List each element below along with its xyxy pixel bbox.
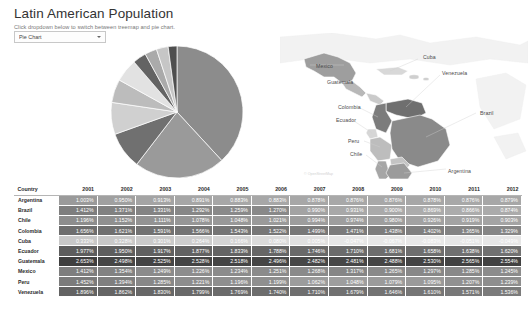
table-row[interactable]: Mexico1.412%1.354%1.249%1.226%1.234%1.25… [15,266,522,276]
table-cell-value: 0.900% [367,205,406,215]
table-cell-country: Argentina [15,195,59,205]
table-cell-value: 1.638% [444,246,483,256]
table-cell-value: 1.095% [406,277,445,287]
table-cell-country: Cuba [15,236,59,246]
table-col-header-2003[interactable]: 2003 [136,184,175,195]
table-cell-value: 1.710% [290,287,329,297]
table-cell-value: 1.394% [97,277,136,287]
map-region-centralamerica[interactable] [366,93,384,105]
table-cell-value: 1.769% [213,287,252,297]
table-row[interactable]: Chile1.196%1.152%1.111%1.078%1.048%1.021… [15,215,522,225]
chart-type-select-value: Pie Chart [19,34,97,40]
table-row[interactable]: Colombia1.656%1.621%1.591%1.566%1.543%1.… [15,226,522,236]
table-col-header-2004[interactable]: 2004 [174,184,213,195]
table-cell-value: 1.543% [213,226,252,236]
table-cell-value: 2.653% [59,256,98,266]
map-label-mexico: Mexico [316,63,333,69]
table-col-header-2012[interactable]: 2012 [483,184,522,195]
table-cell-value: 1.196% [59,215,98,225]
table-row[interactable]: Brazil1.412%1.371%1.331%1.292%1.259%1.27… [15,205,522,215]
table-row[interactable]: Cuba0.333%0.328%0.301%0.264%0.166%0.080%… [15,236,522,246]
table-cell-value: 0.866% [444,205,483,215]
pie-chart-svg [104,44,250,180]
table-cell-country: Venezuela [15,287,59,297]
table-cell-value: 0.878% [290,195,329,205]
table-row[interactable]: Argentina1.003%0.950%0.913%0.891%0.883%0… [15,195,522,205]
table-col-header-2009[interactable]: 2009 [367,184,406,195]
table-cell-value: 1.152% [97,215,136,225]
table-col-header-2010[interactable]: 2010 [406,184,445,195]
table-cell-value: 1.226% [174,266,213,276]
table-cell-value: 1.048% [329,277,368,287]
table-cell-value: 2.525% [136,256,175,266]
chart-type-select[interactable]: Pie Chart [14,31,106,43]
table-cell-value: 1.833% [213,246,252,256]
map-region-cuba[interactable] [376,67,408,75]
table-cell-value: 0.903% [483,215,522,225]
table-cell-value: 1.681% [367,246,406,256]
table-cell-value: 1.111% [136,215,175,225]
table-cell-country: Peru [15,277,59,287]
table-cell-value: -0.049% [483,236,522,246]
table-cell-value: 2.530% [406,256,445,266]
map-label-venezuela: Venezuela [442,70,467,76]
table-cell-value: 0.876% [444,195,483,205]
table-cell-value: 1.710% [329,246,368,256]
table-cell-value: 1.499% [290,226,329,236]
table-cell-value: 1.196% [213,277,252,287]
map-svg [280,33,528,179]
table-cell-value: 1.646% [367,287,406,297]
table-row[interactable]: Peru1.452%1.394%1.285%1.221%1.196%1.199%… [15,277,522,287]
table-cell-value: 1.452% [59,277,98,287]
table-cell-value: 1.862% [97,287,136,297]
table-col-header-2006[interactable]: 2006 [251,184,290,195]
data-table-container[interactable]: Country200120022003200420052006200720082… [14,184,522,297]
table-cell-value: 2.554% [483,256,522,266]
table-cell-value: 1.365% [444,226,483,236]
table-cell-value: 1.740% [251,287,290,297]
table-cell-value: 1.285% [444,266,483,276]
table-cell-value: 1.620% [483,246,522,256]
table-col-header-2001[interactable]: 2001 [59,184,98,195]
table-cell-value: 0.931% [329,205,368,215]
table-row[interactable]: Venezuela1.896%1.862%1.830%1.799%1.769%1… [15,287,522,297]
table-cell-value: 0.891% [174,195,213,205]
table-cell-value: 0.913% [136,195,175,205]
table-cell-value: 1.656% [59,226,98,236]
table-col-header-2005[interactable]: 2005 [213,184,252,195]
choropleth-map[interactable]: © OpenStreetMap MexicoCubaGuatemalaVenez… [280,33,528,179]
table-cell-value: 1.354% [97,266,136,276]
table-col-header-country[interactable]: Country [15,184,59,195]
table-cell-value: 2.482% [290,256,329,266]
table-cell-value: 0.950% [97,195,136,205]
pie-chart[interactable] [104,44,250,180]
table-cell-value: 1.079% [367,277,406,287]
table-col-header-2011[interactable]: 2011 [444,184,483,195]
table-cell-country: Ecuador [15,246,59,256]
table-col-header-2007[interactable]: 2007 [290,184,329,195]
table-cell-value: 1.259% [213,205,252,215]
page-title: Latin American Population [14,6,175,21]
map-region-peru[interactable] [370,137,392,161]
table-cell-value: 1.285% [136,277,175,287]
table-cell-value: 1.062% [290,277,329,287]
table-cell-value: 0.994% [290,215,329,225]
table-cell-value: 1.245% [483,266,522,276]
table-col-header-2008[interactable]: 2008 [329,184,368,195]
table-cell-value: 1.249% [136,266,175,276]
table-cell-country: Chile [15,215,59,225]
table-col-header-2002[interactable]: 2002 [97,184,136,195]
table-row[interactable]: Guatemala2.653%2.498%2.525%2.528%2.518%2… [15,256,522,266]
map-label-ecuador: Ecuador [336,117,356,123]
table-cell-value: 1.522% [251,226,290,236]
table-cell-value: 2.518% [213,256,252,266]
chevron-down-icon [97,36,101,38]
table-cell-value: 0.301% [136,236,175,246]
table-cell-value: 1.877% [174,246,213,256]
map-region-caribbean-islands [409,75,429,81]
map-label-cuba: Cuba [423,54,436,60]
table-cell-value: 0.876% [367,195,406,205]
table-cell-country: Brazil [15,205,59,215]
table-cell-value: 1.402% [406,226,445,236]
table-row[interactable]: Ecuador1.977%1.950%1.917%1.877%1.833%1.7… [15,246,522,256]
